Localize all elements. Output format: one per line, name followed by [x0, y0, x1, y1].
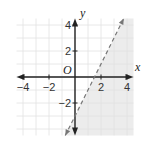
x-tick-label: −2: [43, 81, 56, 93]
y-tick-label: 4: [65, 19, 71, 31]
x-axis-label: x: [134, 60, 141, 74]
y-tick-label: −2: [58, 97, 71, 109]
inequality-graph: x y O −4−22442−2: [0, 0, 148, 146]
y-tick-label: 2: [65, 45, 71, 57]
x-tick-label: 4: [124, 81, 130, 93]
x-tick-label: −4: [17, 81, 30, 93]
origin-label: O: [63, 63, 72, 77]
x-tick-label: 2: [98, 81, 104, 93]
y-axis-label: y: [79, 6, 86, 20]
